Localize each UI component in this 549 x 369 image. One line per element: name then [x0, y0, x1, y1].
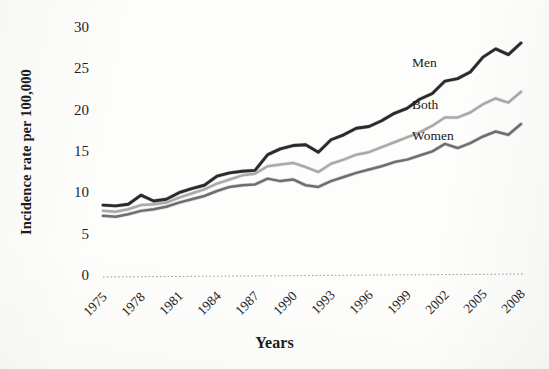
- series-label-women: Women: [412, 128, 454, 144]
- y-axis-tick-label: 15: [55, 143, 89, 160]
- y-axis-tick-label: 20: [55, 102, 89, 119]
- series-line-both: [103, 92, 521, 212]
- y-axis-tick-label: 0: [55, 267, 89, 284]
- x-axis-title: Years: [0, 334, 549, 352]
- series-label-both: Both: [412, 97, 438, 113]
- axis-lines: [98, 28, 525, 281]
- y-axis-tick-label: 5: [55, 226, 89, 243]
- chart-figure: Incidence rate per 100,000 Years 0510152…: [0, 0, 549, 369]
- series-line-halo-men: [103, 43, 521, 206]
- y-axis-tick-label: 30: [55, 19, 89, 36]
- data-series-group: [103, 43, 521, 217]
- y-axis-tick-label: 10: [55, 184, 89, 201]
- x-axis-line: [103, 274, 525, 277]
- y-axis-title: Incidence rate per 100,000: [14, 12, 38, 292]
- series-line-halo-both: [103, 92, 521, 212]
- y-axis-tick-label: 25: [55, 60, 89, 77]
- series-label-men: Men: [412, 55, 437, 71]
- series-line-men: [103, 43, 521, 206]
